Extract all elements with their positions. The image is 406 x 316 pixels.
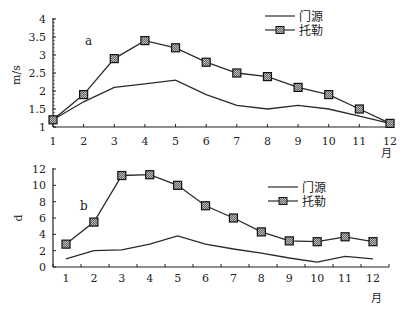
x-tick-label: 7 (230, 272, 237, 285)
square-marker-icon (80, 91, 88, 99)
x-tick-label: 1 (50, 135, 57, 148)
x-tick-label: 3 (111, 135, 118, 148)
x-tick-label: 5 (174, 272, 181, 285)
y-tick-label: 10 (32, 179, 46, 192)
square-marker-icon (49, 116, 57, 124)
x-tick-label: 2 (80, 135, 87, 148)
square-marker-icon (257, 228, 265, 236)
legend-square-marker-icon (279, 198, 287, 205)
y-tick-label: 1.5 (29, 103, 47, 116)
square-marker-icon (341, 233, 349, 241)
x-tick-label: 9 (286, 272, 293, 285)
y-tick-label: 0 (39, 261, 46, 274)
square-marker-icon (285, 237, 293, 245)
y-tick-label: 2.5 (29, 67, 47, 80)
square-marker-icon (202, 202, 210, 210)
square-marker-icon (110, 55, 118, 63)
x-tick-label: 4 (141, 135, 148, 148)
x-tick-label: 9 (295, 135, 302, 148)
panel-letter: a (85, 34, 92, 48)
square-marker-icon (202, 58, 210, 66)
square-marker-icon (174, 181, 182, 189)
square-marker-icon (294, 83, 302, 91)
square-marker-icon (313, 238, 321, 246)
x-axis-title: 月 (371, 292, 382, 305)
y-axis-title: d (12, 214, 25, 221)
series-line-tuole (66, 175, 373, 244)
x-tick-label: 2 (90, 272, 97, 285)
x-tick-label: 11 (352, 135, 366, 148)
y-tick-label: 2 (39, 85, 46, 98)
square-marker-icon (355, 105, 363, 113)
square-marker-icon (369, 238, 377, 246)
chart-panel-a: 11.522.533.54123456789101112m/s月a门源托勒 (10, 9, 397, 161)
square-marker-icon (233, 69, 241, 77)
y-tick-label: 1 (39, 121, 46, 134)
x-axis-title: 月 (381, 147, 392, 160)
y-tick-label: 2 (39, 245, 46, 258)
legend: 门源托勒 (268, 180, 326, 209)
square-marker-icon (172, 44, 180, 52)
x-tick-label: 10 (310, 272, 324, 285)
chart-panel-b: 024681012123456789101112d月b门源托勒 (12, 163, 389, 305)
series-line-menyuan (53, 80, 390, 123)
square-marker-icon (90, 218, 98, 226)
x-tick-label: 1 (63, 272, 70, 285)
square-marker-icon (229, 214, 237, 222)
x-tick-label: 6 (203, 135, 210, 148)
x-tick-label: 12 (366, 272, 380, 285)
y-tick-label: 8 (39, 196, 46, 209)
y-tick-label: 12 (32, 163, 46, 176)
y-tick-label: 6 (39, 212, 46, 225)
x-tick-label: 3 (118, 272, 125, 285)
x-tick-label: 11 (338, 272, 352, 285)
y-tick-label: 3.5 (29, 31, 47, 44)
y-axis-title: m/s (10, 65, 23, 85)
square-marker-icon (141, 37, 149, 45)
legend-label: 托勒 (302, 195, 326, 209)
square-marker-icon (146, 171, 154, 179)
x-tick-label: 5 (172, 135, 179, 148)
panel-letter: b (80, 199, 88, 213)
square-marker-icon (62, 240, 70, 248)
y-tick-label: 3 (39, 49, 46, 62)
chart-canvas: 11.522.533.54123456789101112m/s月a门源托勒 02… (0, 0, 406, 316)
x-tick-label: 6 (202, 272, 209, 285)
legend: 门源托勒 (265, 9, 323, 38)
square-marker-icon (118, 172, 126, 180)
legend-square-marker-icon (276, 27, 284, 34)
legend-label: 门源 (299, 9, 323, 24)
y-tick-label: 4 (39, 228, 46, 241)
square-marker-icon (386, 119, 394, 127)
x-tick-label: 4 (146, 272, 153, 285)
x-tick-label: 8 (264, 135, 271, 148)
legend-label: 门源 (302, 180, 326, 195)
x-tick-label: 8 (258, 272, 265, 285)
y-tick-label: 4 (39, 13, 46, 26)
legend-label: 托勒 (299, 24, 323, 38)
square-marker-icon (263, 73, 271, 81)
x-tick-label: 7 (233, 135, 240, 148)
square-marker-icon (325, 91, 333, 99)
figure: 11.522.533.54123456789101112m/s月a门源托勒 02… (0, 0, 406, 316)
x-tick-label: 10 (322, 135, 336, 148)
